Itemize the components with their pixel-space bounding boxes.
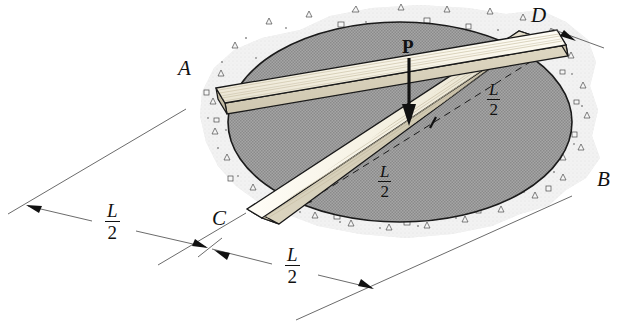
dimension-label-cd-lower: L 2 bbox=[378, 163, 391, 201]
dimension-numerator: L bbox=[105, 201, 120, 220]
dimension-tick-c bbox=[198, 238, 222, 257]
dimension-numerator: L bbox=[285, 245, 300, 264]
dimension-label-ab-left: L 2 bbox=[105, 201, 120, 243]
dimension-denominator: 2 bbox=[378, 183, 391, 201]
dimension-numerator: L bbox=[378, 163, 391, 180]
dimension-numerator: L bbox=[487, 81, 500, 98]
label-point-a: A bbox=[178, 58, 191, 79]
dimension-denominator: 2 bbox=[105, 223, 120, 243]
dimension-label-ab-right: L 2 bbox=[285, 245, 300, 287]
label-point-d: D bbox=[531, 5, 546, 26]
engineering-figure: A B C D P L 2 L 2 L 2 L 2 bbox=[0, 0, 618, 323]
dimension-label-cd-upper: L 2 bbox=[487, 81, 500, 119]
label-point-c: C bbox=[212, 208, 226, 229]
dimension-denominator: 2 bbox=[487, 101, 500, 119]
dimension-denominator: 2 bbox=[285, 267, 300, 287]
extension-line-a bbox=[8, 109, 186, 214]
label-point-b: B bbox=[597, 169, 610, 190]
label-force-p: P bbox=[402, 37, 414, 56]
dim-line-ab-right-a bbox=[212, 249, 272, 264]
figure-drawing bbox=[0, 0, 618, 323]
